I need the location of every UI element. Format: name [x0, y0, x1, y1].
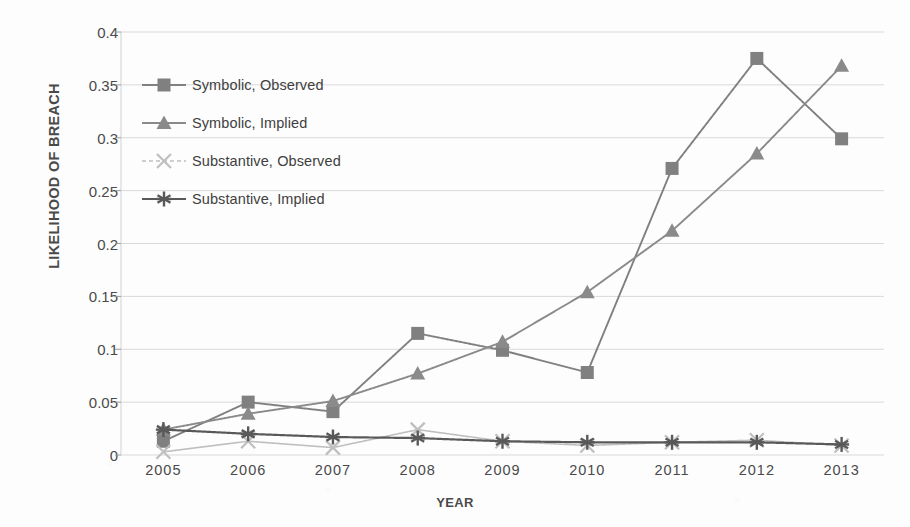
line-chart: LIKELIHOOD OF BREACH 00.050.10.150.20.25…	[0, 0, 910, 527]
square-marker	[158, 79, 171, 92]
triangle-marker	[495, 334, 510, 348]
legend-label: Substantive, Observed	[188, 153, 341, 169]
plot-area	[0, 0, 910, 527]
square-marker	[326, 405, 339, 418]
legend-marker	[140, 113, 188, 133]
square-marker	[666, 162, 679, 175]
legend-item[interactable]: Substantive, Observed	[140, 142, 400, 180]
triangle-marker	[580, 285, 595, 299]
asterisk-marker	[140, 189, 188, 209]
chart-legend: Symbolic, ObservedSymbolic, ImpliedSubst…	[140, 66, 400, 218]
legend-marker	[140, 75, 188, 95]
legend-label: Substantive, Implied	[188, 191, 325, 207]
square-marker	[581, 366, 594, 379]
legend-item[interactable]: Substantive, Implied	[140, 180, 400, 218]
legend-marker	[140, 151, 188, 171]
legend-label: Symbolic, Observed	[188, 77, 324, 93]
triangle-marker	[140, 113, 188, 133]
square-marker	[411, 327, 424, 340]
legend-label: Symbolic, Implied	[188, 115, 307, 131]
legend-item[interactable]: Symbolic, Implied	[140, 104, 400, 142]
square-marker	[140, 75, 188, 95]
legend-marker	[140, 189, 188, 209]
square-marker	[835, 132, 848, 145]
series-substantive-implied	[156, 422, 849, 452]
x-marker	[140, 151, 188, 171]
square-marker	[750, 52, 763, 65]
triangle-marker	[410, 366, 425, 380]
legend-item[interactable]: Symbolic, Observed	[140, 66, 400, 104]
triangle-marker	[834, 58, 849, 71]
